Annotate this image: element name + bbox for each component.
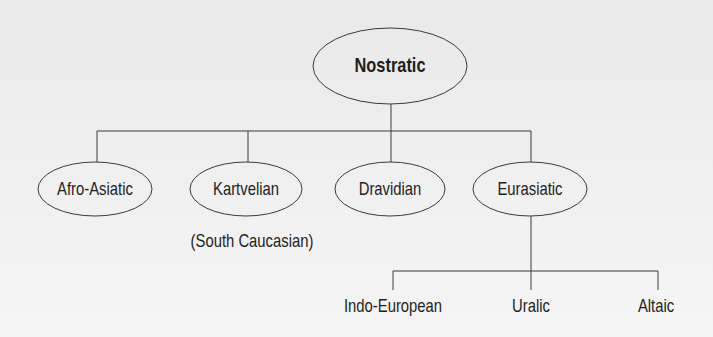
node-eurasiatic: Eurasiatic <box>497 179 562 199</box>
node-kartvelian: Kartvelian <box>213 179 279 199</box>
node-indo-european: Indo-European <box>344 296 442 316</box>
node-afro-asiatic: Afro-Asiatic <box>57 179 133 199</box>
node-altaic: Altaic <box>638 296 674 316</box>
node-nostratic: Nostratic <box>354 55 425 75</box>
node-dravidian: Dravidian <box>359 179 422 199</box>
tree-connectors <box>0 0 713 337</box>
kartvelian-note: (South Caucasian) <box>191 231 314 251</box>
node-uralic: Uralic <box>512 296 550 316</box>
